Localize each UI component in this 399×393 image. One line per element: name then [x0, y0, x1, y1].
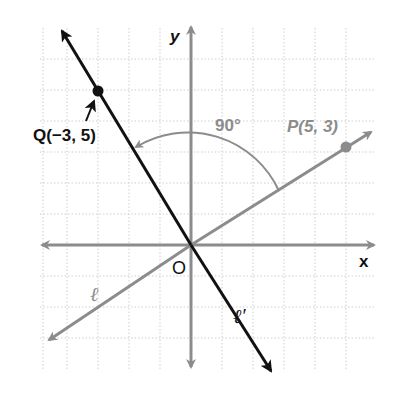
line-l-label: ℓ	[90, 283, 98, 306]
origin-label: O	[172, 258, 186, 279]
point-p-label: P(5, 3)	[287, 117, 338, 137]
coordinate-diagram: y x O Q(−3, 5) P(5, 3) 90° ℓ ℓ′	[0, 0, 399, 393]
line-l-prime-neg	[191, 245, 271, 371]
point-p	[341, 142, 352, 153]
diagram-canvas	[0, 0, 399, 393]
angle-label: 90°	[215, 116, 241, 136]
right-angle-arc	[136, 132, 279, 191]
point-q-label: Q(−3, 5)	[33, 126, 96, 146]
line-l-neg	[49, 245, 191, 340]
x-axis-label: x	[359, 252, 368, 272]
q-pointer-arrow	[86, 101, 94, 121]
point-q	[93, 86, 104, 97]
y-axis-label: y	[170, 27, 179, 47]
line-l-prime-label: ℓ′	[233, 305, 246, 328]
